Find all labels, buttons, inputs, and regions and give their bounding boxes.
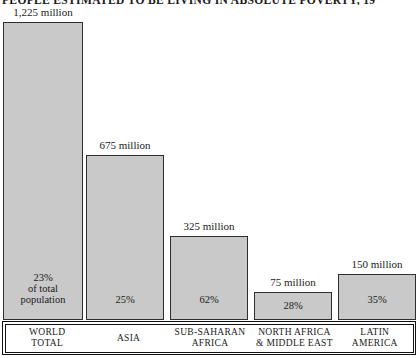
category-label-world-total: WORLD TOTAL [6,325,89,352]
category-label-latin-america: LATIN AMERICA [337,325,412,352]
category-label-world-total-line2: TOTAL [29,338,65,349]
category-label-latin-america-line1: LATIN [352,327,398,338]
bar-value-label-sub-saharan-africa: 325 million [183,220,234,233]
bar-group-latin-america: 150 million 35% [338,0,416,320]
bar-rect-north-africa-middle-east[interactable]: 28% [254,292,332,320]
category-label-sub-saharan-africa-line2: AFRICA [175,338,246,349]
bar-rect-latin-america[interactable]: 35% [338,274,416,320]
bar-percent-label-north-africa-middle-east: 28% [255,300,331,312]
category-label-sub-saharan-africa-line1: SUB-SAHARAN [175,327,246,338]
bar-rect-sub-saharan-africa[interactable]: 62% [170,236,248,320]
bar-rect-asia[interactable]: 25% [86,155,164,320]
bar-percent-label-latin-america: 35% [339,294,415,306]
bar-value-label-north-africa-middle-east: 75 million [270,276,316,289]
category-label-asia: ASIA [89,325,168,352]
bar-chart-figure: PEOPLE ESTIMATED TO BE LIVING IN ABSOLUT… [0,0,419,358]
bar-rect-world-total[interactable]: 23% of total population [3,22,83,320]
category-axis-inner-frame: WORLD TOTAL ASIA SUB-SAHARAN AFRICA NORT [5,324,414,353]
bar-group-world-total: 1,225 million 23% of total population [3,0,83,320]
category-label-asia-line1: ASIA [117,333,140,344]
category-axis-box: WORLD TOTAL ASIA SUB-SAHARAN AFRICA NORT [2,321,416,355]
plot-area: 1,225 million 23% of total population 67… [0,0,419,320]
bar-percent-label-sub-saharan-africa: 62% [171,294,247,306]
category-label-north-africa-middle-east: NORTH AFRICA & MIDDLE EAST [252,325,337,352]
bar-percent-note-line2-world-total: of total [4,283,82,295]
bar-group-north-africa-middle-east: 75 million 28% [254,0,332,320]
category-label-sub-saharan-africa: SUB-SAHARAN AFRICA [168,325,251,352]
category-label-world-total-line1: WORLD [29,327,65,338]
bar-value-label-asia: 675 million [99,139,150,152]
bar-value-label-latin-america: 150 million [351,258,402,271]
bar-group-asia: 675 million 25% [86,0,164,320]
category-label-north-africa-middle-east-line2: & MIDDLE EAST [256,338,333,349]
bar-percent-note-line3-world-total: population [4,294,82,306]
bar-group-sub-saharan-africa: 325 million 62% [170,0,248,320]
bar-percent-label-asia: 25% [87,294,163,306]
category-label-north-africa-middle-east-line1: NORTH AFRICA [256,327,333,338]
bar-value-label-world-total: 1,225 million [13,6,72,19]
bar-percent-label-world-total: 23% [4,272,82,284]
category-label-latin-america-line2: AMERICA [352,338,398,349]
